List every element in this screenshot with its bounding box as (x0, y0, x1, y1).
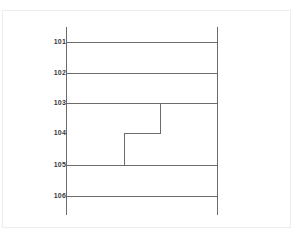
ladder-diagram: 101102103104105106 (0, 0, 293, 239)
row-label-104: 104 (40, 129, 66, 137)
row-label-105: 105 (40, 161, 66, 169)
figure-canvas: 101102103104105106 (0, 0, 293, 239)
step-horizontal-mid (124, 133, 161, 134)
left-rail (66, 27, 67, 215)
rung-105 (66, 165, 218, 166)
rung-102 (66, 73, 218, 74)
right-rail (217, 27, 218, 215)
row-label-101: 101 (40, 38, 66, 46)
rung-101 (66, 42, 218, 43)
row-label-102: 102 (40, 69, 66, 77)
row-label-103: 103 (40, 99, 66, 107)
step-vertical-left (124, 133, 125, 165)
step-vertical-right (160, 103, 161, 133)
row-label-106: 106 (40, 192, 66, 200)
rung-106 (66, 196, 218, 197)
rung-103 (66, 103, 218, 104)
